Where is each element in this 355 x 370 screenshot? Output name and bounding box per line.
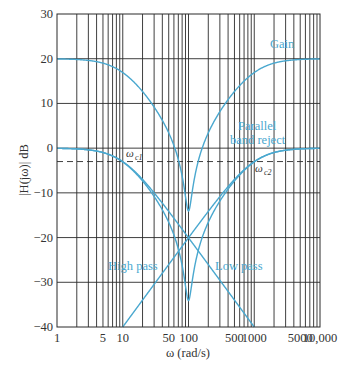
x-axis-label: ω (rad/s) (166, 346, 210, 360)
y-tick-label: −30 (33, 275, 53, 289)
label-low-pass: Low pass (215, 259, 263, 273)
y-axis-label: |H(jω)| dB (17, 144, 31, 196)
x-tick-label: 100 (179, 331, 198, 345)
label-gain: Gain (270, 37, 295, 51)
annotation-wc1: ω c1 (126, 147, 143, 162)
y-tick-label: 20 (41, 52, 54, 66)
y-tick-label: −20 (33, 231, 53, 245)
svg-text:ω: ω (255, 162, 263, 174)
y-tick-labels: 3020100−10−20−30−40 (33, 7, 53, 334)
svg-text:c2: c2 (264, 168, 272, 177)
label-band-reject: band reject (230, 133, 286, 147)
svg-text:c1: c1 (135, 153, 143, 162)
label-parallel: Parallel (238, 119, 277, 133)
x-tick-label: 50 (162, 331, 175, 345)
y-tick-label: −10 (33, 186, 53, 200)
y-tick-label: 0 (47, 141, 53, 155)
x-tick-label: 1 (54, 331, 60, 345)
x-tick-labels: 1510501005001000500010,000 (54, 331, 337, 345)
x-tick-label: 1000 (242, 331, 267, 345)
x-tick-label: 10,000 (303, 331, 337, 345)
annotation-wc2: ω c2 (255, 162, 272, 177)
x-tick-label: 5 (100, 331, 106, 345)
svg-text:ω: ω (126, 147, 134, 159)
y-tick-label: 30 (41, 7, 54, 21)
x-tick-label: 10 (117, 331, 130, 345)
bode-plot: 3020100−10−20−30−40 15105010050010005000… (0, 0, 355, 370)
label-high-pass: High pass (108, 259, 158, 273)
y-tick-label: 10 (41, 96, 54, 110)
y-tick-label: −40 (33, 320, 53, 334)
